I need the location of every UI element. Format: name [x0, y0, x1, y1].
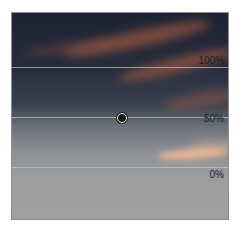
position-marker-handle[interactable] [117, 113, 127, 123]
level-line-100 [12, 67, 228, 68]
level-line-0 [12, 167, 228, 168]
cloud-shape [157, 147, 228, 162]
cloud-shape [161, 86, 229, 114]
label-50: 50% [204, 113, 224, 124]
label-100: 100% [198, 55, 224, 66]
gradient-preview-panel[interactable]: 100% 50% 0% [11, 12, 229, 220]
label-0: 0% [210, 169, 224, 180]
